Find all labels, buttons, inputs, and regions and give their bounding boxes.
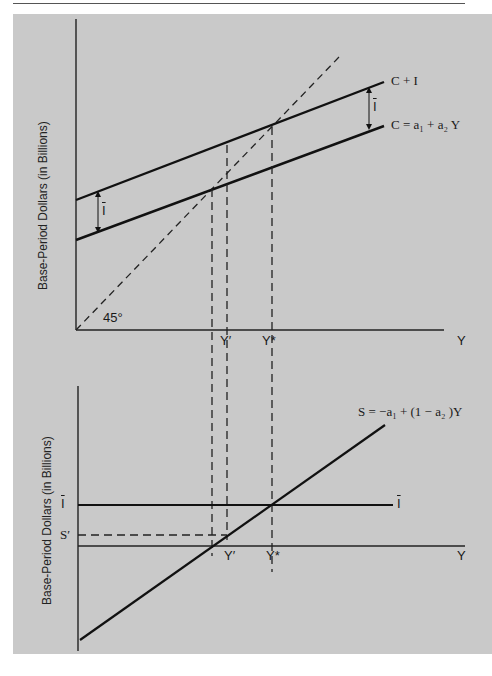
investment-label-right: I xyxy=(397,496,401,511)
i-gap-label-left: I xyxy=(102,203,106,218)
saving-line xyxy=(80,425,385,640)
i-gap-label-right: I xyxy=(373,99,377,114)
upper-x-axis-label: Y xyxy=(457,333,466,348)
i-bar-y-marker: I xyxy=(61,496,65,511)
arrowhead-down-icon xyxy=(366,124,372,130)
c-plus-i-label: C + I xyxy=(391,73,418,89)
lower-y-star-label: Y* xyxy=(266,548,280,563)
c-plus-i-text: C + I xyxy=(391,73,418,88)
lower-y-axis-label: Base-Period Dollars (in Billions) xyxy=(40,436,54,605)
lower-y-prime-label: Y′ xyxy=(224,548,235,563)
upper-y-axis-label: Base-Period Dollars (in Billions) xyxy=(36,121,50,290)
lower-x-axis-label: Y xyxy=(457,548,466,563)
forty-five-degree-line xyxy=(76,56,340,330)
s-prime-y-marker: S′ xyxy=(60,527,70,543)
diagram-canvas xyxy=(0,0,492,676)
forty-five-label: 45° xyxy=(103,310,123,325)
consumption-label: C = a₁ + a₂ Y xyxy=(391,117,460,133)
saving-label: S = −a₁ + (1 − a₂ )Y xyxy=(358,404,462,420)
upper-y-star-label: Y* xyxy=(262,333,276,348)
upper-y-prime-label: Y′ xyxy=(220,333,231,348)
